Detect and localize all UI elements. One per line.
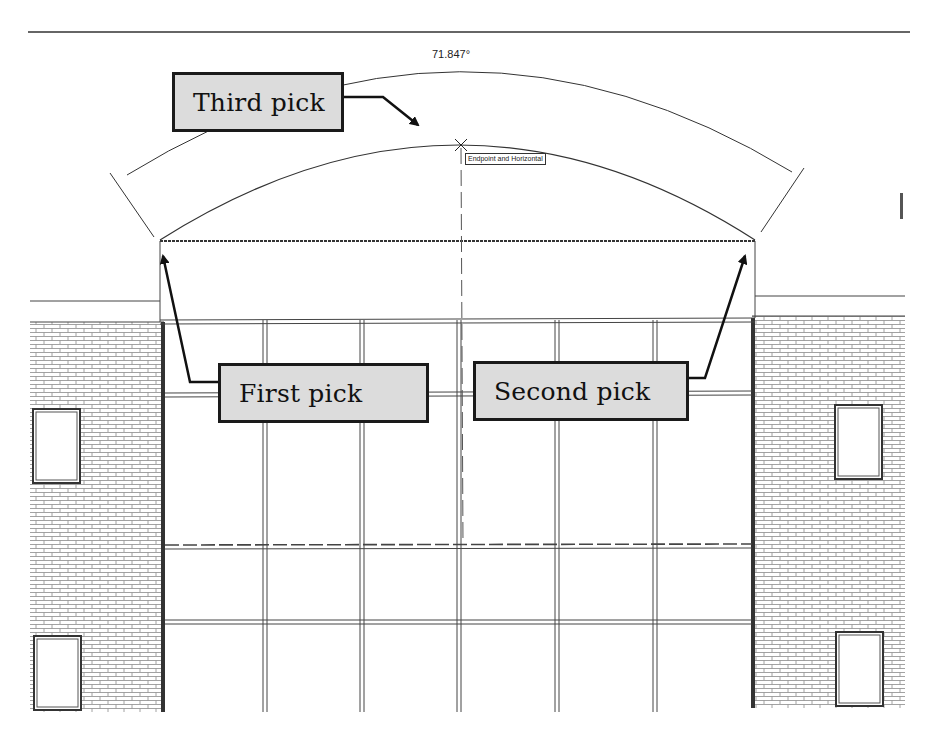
window-right-lower: [836, 632, 883, 706]
dimension-ext-left: [110, 173, 154, 237]
angle-dimension-label: 71.847°: [432, 48, 470, 60]
elevation-drawing: [0, 0, 929, 751]
first-pick-leader: [163, 256, 218, 382]
dimension-ext-right: [761, 168, 804, 232]
window-left-upper: [33, 409, 80, 483]
snap-tooltip: Endpoint and Horizontal: [465, 153, 546, 165]
second-pick-leader: [688, 256, 745, 378]
left-wall-edge: [161, 322, 165, 712]
arc-preview: [160, 145, 755, 240]
callout-first-pick-label: First pick: [239, 379, 362, 408]
callout-second-pick-label: Second pick: [494, 377, 650, 406]
callout-third-pick: Third pick: [172, 72, 344, 132]
callout-third-pick-label: Third pick: [193, 88, 325, 117]
edge-marker: [900, 193, 903, 219]
window-right-upper: [835, 405, 882, 479]
parapet: [160, 241, 755, 322]
window-left-lower: [34, 636, 81, 710]
right-wall-edge: [751, 318, 755, 708]
third-pick-leader: [343, 97, 418, 125]
callout-first-pick: First pick: [218, 363, 429, 423]
callout-second-pick: Second pick: [473, 361, 689, 421]
